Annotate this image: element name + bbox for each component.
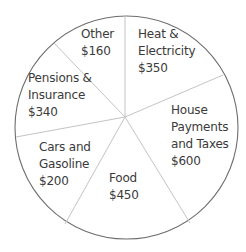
slice-value: $200 — [39, 173, 91, 190]
slice-value: $340 — [28, 104, 92, 121]
slice-value: $450 — [109, 187, 139, 204]
slice-name: Insurance — [28, 87, 92, 104]
slice-name: Payments — [171, 119, 229, 136]
slice-name: Electricity — [138, 43, 195, 60]
slice-label-cars: Cars and Gasoline $200 — [39, 139, 91, 190]
slice-value: $600 — [171, 153, 229, 170]
slice-name: and Taxes — [171, 136, 229, 153]
slice-name: House — [171, 102, 229, 119]
slice-name: Food — [109, 170, 139, 187]
slice-label-heat: Heat & Electricity $350 — [138, 26, 195, 77]
slice-label-house: House Payments and Taxes $600 — [171, 102, 229, 170]
slice-name: Cars and — [39, 139, 91, 156]
slice-name: Other — [81, 26, 114, 43]
slice-name: Heat & — [138, 26, 195, 43]
slice-name: Gasoline — [39, 156, 91, 173]
slice-label-pensions: Pensions & Insurance $340 — [28, 70, 92, 121]
slice-name: Pensions & — [28, 70, 92, 87]
slice-label-food: Food $450 — [109, 170, 139, 204]
slice-label-other: Other $160 — [81, 26, 114, 60]
slice-value: $350 — [138, 60, 195, 77]
slice-value: $160 — [81, 43, 114, 60]
